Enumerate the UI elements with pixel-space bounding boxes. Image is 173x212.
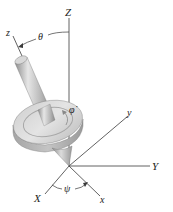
label-psi: ψ — [64, 183, 71, 194]
label-theta: θ — [38, 31, 43, 42]
gyroscope-diagram: Z Y X z y x θ ψ φ̇ — [0, 0, 173, 212]
label-Y: Y — [152, 160, 160, 172]
label-y: y — [126, 107, 132, 118]
cone-tip — [52, 146, 72, 166]
disk — [9, 94, 86, 152]
theta-arc — [18, 32, 69, 48]
theta-arrowhead-icon — [18, 43, 23, 48]
label-Z: Z — [65, 6, 72, 18]
label-z: z — [5, 27, 10, 38]
label-x: x — [99, 194, 105, 205]
label-X: X — [33, 192, 42, 204]
x-axis-line — [69, 166, 100, 196]
